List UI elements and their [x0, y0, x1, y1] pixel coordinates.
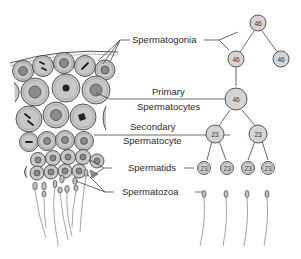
sperm-3 [245, 191, 249, 198]
spermatozoa-cells [33, 170, 88, 247]
svg-text:46: 46 [232, 56, 240, 63]
node-spermatogonium-right: 46 [273, 51, 289, 67]
node-secondary-left: 23 [206, 125, 224, 143]
node-secondary-right: 23 [249, 125, 267, 143]
node-spermatid-3: 23 [242, 162, 255, 175]
svg-text:23: 23 [264, 165, 272, 172]
svg-text:23: 23 [223, 165, 231, 172]
node-spermatid-2: 23 [221, 162, 234, 175]
node-spermatid-1: 23 [198, 162, 211, 175]
label-spermatozoa: Spermatozoa [122, 186, 179, 197]
node-top-spermatogonium: 46 [250, 15, 266, 31]
sperm-2 [224, 191, 228, 198]
label-spermatocytes: Spermatocytes [137, 101, 201, 112]
lineage-tree: 46 46 46 46 23 23 23 23 [198, 15, 290, 246]
svg-text:23: 23 [200, 165, 208, 172]
label-spermatocyte: Spermatocyte [123, 135, 182, 146]
node-primary-spermatocyte: 46 [225, 88, 247, 110]
sperm-1 [202, 191, 206, 198]
mature-spermatozoa [200, 191, 269, 247]
label-spermatogonia: Spermatogonia [132, 34, 197, 45]
svg-text:23: 23 [254, 131, 262, 138]
stage-labels: Spermatogonia Primary Spermatocytes Seco… [122, 34, 201, 197]
svg-text:23: 23 [211, 131, 219, 138]
svg-text:23: 23 [244, 165, 252, 172]
sperm-4 [265, 191, 269, 198]
node-spermatid-4: 23 [262, 162, 275, 175]
label-primary: Primary [152, 86, 185, 97]
secondary-spermatocyte-cells [20, 131, 94, 152]
svg-text:46: 46 [232, 96, 240, 103]
label-spermatids: Spermatids [128, 162, 176, 173]
spermatogenesis-diagram: Spermatogonia Primary Spermatocytes Seco… [0, 0, 301, 259]
node-spermatogonium-left: 46 [228, 51, 244, 67]
svg-text:46: 46 [254, 20, 262, 27]
label-secondary: Secondary [130, 121, 176, 132]
svg-text:46: 46 [277, 56, 285, 63]
dividing-spermatocyte-cells [16, 102, 106, 132]
seminiferous-tubule-section [10, 51, 118, 246]
